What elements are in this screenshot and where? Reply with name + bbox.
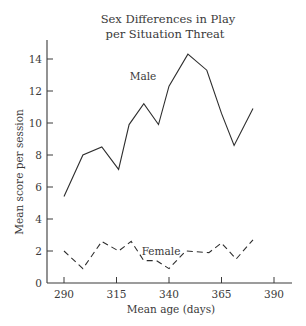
y-tick-label: 10 <box>29 117 42 129</box>
y-tick-label: 8 <box>35 149 42 161</box>
x-tick-label: 390 <box>264 288 284 300</box>
female-series-label: Female <box>142 245 181 257</box>
x-tick-label: 365 <box>211 288 231 300</box>
y-axis: 02468101214 <box>29 40 53 289</box>
x-tick-label: 315 <box>106 288 126 300</box>
x-axis-label: Mean age (days) <box>127 303 215 315</box>
y-axis-label: Mean score per session <box>13 109 25 235</box>
x-tick-label: 290 <box>54 288 74 300</box>
y-axis-ticks: 02468101214 <box>29 53 53 289</box>
male-series-line <box>64 54 253 196</box>
line-chart: Sex Differences in Play per Situation Th… <box>0 0 306 326</box>
y-tick-label: 2 <box>35 245 42 257</box>
y-tick-label: 4 <box>35 213 42 225</box>
x-tick-label: 340 <box>159 288 179 300</box>
x-axis: 290315340365390 <box>47 277 292 300</box>
y-tick-label: 12 <box>29 85 42 97</box>
x-axis-ticks: 290315340365390 <box>54 277 284 300</box>
chart-title-line-2: per Situation Threat <box>106 27 225 41</box>
chart-title-line-1: Sex Differences in Play <box>101 12 236 26</box>
y-tick-label: 14 <box>29 53 43 65</box>
y-tick-label: 0 <box>35 277 42 289</box>
male-series-label: Male <box>130 70 157 82</box>
y-tick-label: 6 <box>35 181 42 193</box>
